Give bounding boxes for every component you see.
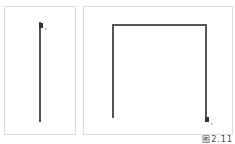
vertical-stroke [5,7,77,136]
left-drawing-panel [4,6,76,135]
right-drawing-panel [83,6,233,135]
figure-caption: 图2.11 [202,133,233,144]
inverted-u-stroke [84,7,234,136]
pen-cursor-icon [205,117,213,125]
